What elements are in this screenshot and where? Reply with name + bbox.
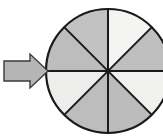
figure-canvas — [0, 0, 163, 136]
fraction-circle-figure — [0, 0, 163, 136]
